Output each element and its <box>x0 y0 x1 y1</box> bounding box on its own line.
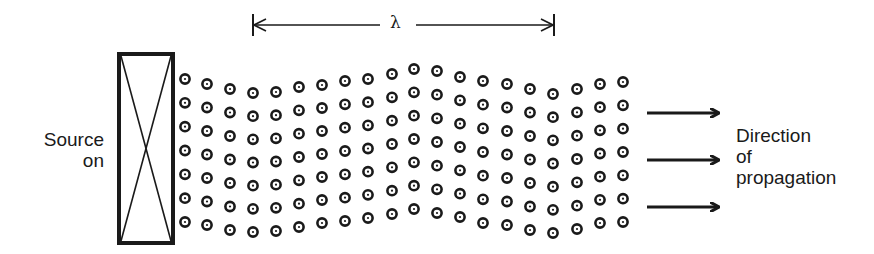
particle-icon <box>225 108 234 117</box>
particle-icon <box>363 98 372 107</box>
particle-icon <box>595 103 604 112</box>
particle-icon <box>455 96 464 105</box>
propagation-arrows <box>647 113 718 207</box>
particle-icon <box>409 64 418 73</box>
particle-icon <box>340 146 349 155</box>
direction-label: Direction of propagation <box>736 125 836 188</box>
particle-icon <box>595 149 604 158</box>
wave-diagram: λ Source on Direction of propagation <box>0 0 874 254</box>
particle-icon <box>478 147 487 156</box>
particle-icon <box>409 204 418 213</box>
particle-icon <box>202 103 211 112</box>
particle-icon <box>525 131 534 140</box>
particle-icon <box>363 190 372 199</box>
source-box <box>119 54 173 243</box>
particle-icon <box>618 171 627 180</box>
particle-icon <box>548 159 557 168</box>
particle-icon <box>225 131 234 140</box>
particle-icon <box>548 89 557 98</box>
particle-icon <box>180 74 189 83</box>
particle-icon <box>271 87 280 96</box>
particle-icon <box>525 178 534 187</box>
particle-icon <box>271 203 280 212</box>
particle-icon <box>294 129 303 138</box>
particle-icon <box>595 126 604 135</box>
particle-icon <box>363 144 372 153</box>
particle-icon <box>432 137 441 146</box>
particle-icon <box>387 209 396 218</box>
particle-icon <box>363 74 372 83</box>
particle-icon <box>525 108 534 117</box>
particle-icon <box>618 147 627 156</box>
particle-icon <box>294 199 303 208</box>
wavelength-marker <box>253 14 554 36</box>
particle-icon <box>548 182 557 191</box>
particle-icon <box>248 135 257 144</box>
particle-icon <box>387 186 396 195</box>
particle-icon <box>294 82 303 91</box>
particle-icon <box>225 155 234 164</box>
particle-icon <box>363 213 372 222</box>
particle-icon <box>340 193 349 202</box>
particle-icon <box>618 194 627 203</box>
particle-icon <box>317 195 326 204</box>
particle-icon <box>432 114 441 123</box>
particle-icon <box>202 220 211 229</box>
particle-icon <box>387 69 396 78</box>
particle-icon <box>572 178 581 187</box>
particle-icon <box>317 218 326 227</box>
particle-icon <box>478 76 487 85</box>
particle-icon <box>455 166 464 175</box>
particle-icon <box>502 126 511 135</box>
particle-icon <box>618 124 627 133</box>
particle-icon <box>548 228 557 237</box>
particle-icon <box>502 173 511 182</box>
particle-icon <box>572 131 581 140</box>
particle-icon <box>363 121 372 130</box>
particle-icon <box>340 123 349 132</box>
particle-icon <box>202 150 211 159</box>
particle-icon <box>248 88 257 97</box>
particle-icon <box>225 202 234 211</box>
particle-icon <box>432 90 441 99</box>
direction-label-line-1: Direction <box>736 125 836 146</box>
particle-icon <box>409 111 418 120</box>
particle-icon <box>409 134 418 143</box>
source-label-line-2: on <box>28 150 104 171</box>
particle-icon <box>548 136 557 145</box>
source-label-line-1: Source <box>28 129 104 150</box>
particle-icon <box>248 227 257 236</box>
particle-icon <box>572 154 581 163</box>
particle-icon <box>180 122 189 131</box>
particle-icon <box>502 79 511 88</box>
particle-icon <box>202 79 211 88</box>
particle-icon <box>387 93 396 102</box>
particle-icon <box>572 201 581 210</box>
particle-icon <box>180 146 189 155</box>
particle-icon <box>595 218 604 227</box>
particle-icon <box>432 208 441 217</box>
particle-icon <box>271 111 280 120</box>
particle-icon <box>248 181 257 190</box>
particle-icon <box>248 158 257 167</box>
particle-icon <box>432 66 441 75</box>
particle-icon <box>502 150 511 159</box>
particle-icon <box>478 124 487 133</box>
particle-icon <box>387 116 396 125</box>
wavelength-symbol: λ <box>390 12 401 32</box>
particle-icon <box>455 119 464 128</box>
particle-grid <box>180 64 627 237</box>
source-label: Source on <box>28 129 104 171</box>
particle-icon <box>595 195 604 204</box>
particle-icon <box>432 161 441 170</box>
particle-icon <box>271 134 280 143</box>
particle-icon <box>572 84 581 93</box>
particle-icon <box>248 112 257 121</box>
particle-icon <box>455 212 464 221</box>
particle-icon <box>455 189 464 198</box>
particle-icon <box>525 225 534 234</box>
particle-icon <box>572 224 581 233</box>
particle-icon <box>271 157 280 166</box>
particle-icon <box>317 172 326 181</box>
particle-icon <box>387 163 396 172</box>
